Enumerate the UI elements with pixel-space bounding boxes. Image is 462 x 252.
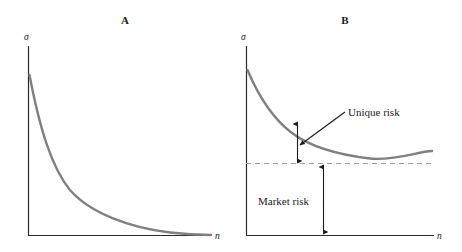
panel-a-x-axis-label: n xyxy=(215,231,220,241)
panel-b-x-axis-label: n xyxy=(437,231,442,241)
panel-a-y-axis-label: σ xyxy=(24,32,29,42)
market-risk-label: Market risk xyxy=(258,195,310,207)
risk-diversification-figure: A σ n B σ n xyxy=(0,0,462,252)
panel-b-title: B xyxy=(341,14,349,26)
unique-risk-label: Unique risk xyxy=(348,106,400,118)
panel-a-title: A xyxy=(121,14,129,26)
panel-b-y-axis-label: σ xyxy=(241,32,246,42)
figure-background xyxy=(0,0,462,252)
